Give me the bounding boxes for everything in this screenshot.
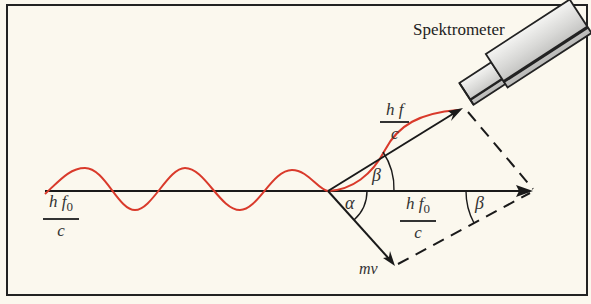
alpha-arc — [354, 191, 367, 220]
photon-wave — [45, 168, 328, 210]
scattered-momentum-label: h f c — [380, 100, 409, 143]
beta-label-right: β — [475, 193, 484, 214]
beta-label-top: β — [372, 165, 381, 186]
alpha-label: α — [345, 193, 354, 214]
compton-scattering-diagram: Spektrometer h f0 c h f0 c h f c mv α β … — [0, 0, 591, 304]
diagram-canvas — [0, 0, 591, 304]
spectrometer-label: Spektrometer — [413, 20, 505, 40]
beta-arc-right — [466, 191, 474, 223]
beta-arc-top — [383, 152, 394, 191]
electron-momentum-label: mv — [359, 260, 378, 278]
incident-momentum-label: h f0 c — [43, 192, 79, 240]
electron-momentum-vector — [328, 191, 391, 261]
dashed-line-upper — [468, 112, 533, 189]
spectrometer-icon — [454, 0, 591, 108]
incident-momentum-label-right: h f0 c — [400, 194, 436, 242]
